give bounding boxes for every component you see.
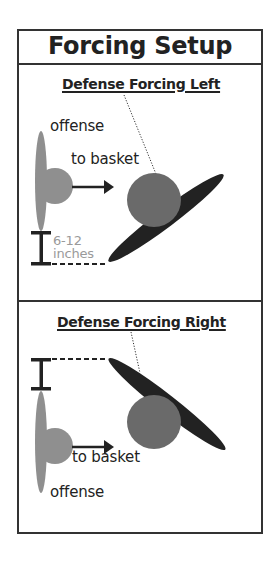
defense-player-shape — [127, 395, 181, 449]
offense-head-shape — [37, 428, 73, 464]
dotted-pointer-line — [131, 332, 140, 373]
dotted-pointer-line — [124, 95, 156, 174]
panel-left-graphics — [31, 95, 229, 269]
arrow-right-icon — [72, 440, 114, 454]
arrow-right-icon — [72, 180, 114, 194]
distance-bracket-icon — [31, 231, 106, 266]
distance-bracket-icon — [31, 358, 108, 391]
offense-head-shape — [37, 168, 73, 204]
panel-right-graphics — [31, 332, 231, 493]
defense-player-shape — [127, 173, 181, 227]
diagram-graphics — [0, 0, 276, 571]
